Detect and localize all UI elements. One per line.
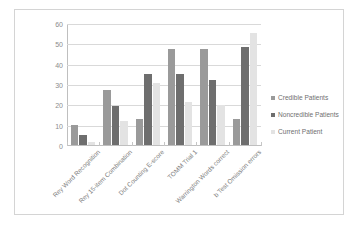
y-axis-tick-label: 20 bbox=[55, 102, 63, 109]
legend-label: Current Patient bbox=[278, 129, 322, 136]
plot-area: 0102030405060 bbox=[67, 24, 261, 146]
bar bbox=[209, 80, 217, 145]
bar bbox=[185, 102, 193, 145]
bar-group bbox=[164, 23, 196, 145]
legend-label: Credible Patients bbox=[278, 95, 328, 102]
bar bbox=[144, 74, 152, 145]
legend-item[interactable]: Current Patient bbox=[271, 128, 351, 136]
legend-item[interactable]: Noncredible Patients bbox=[271, 111, 351, 119]
bar bbox=[88, 142, 96, 145]
y-axis-tick-label: 40 bbox=[55, 61, 63, 68]
legend-swatch-icon bbox=[271, 113, 275, 117]
bar bbox=[250, 33, 258, 145]
legend-swatch-icon bbox=[271, 96, 275, 100]
y-axis-tick-label: 50 bbox=[55, 41, 63, 48]
bar bbox=[200, 49, 208, 145]
legend-label: Noncredible Patients bbox=[278, 112, 339, 119]
chart-legend: Credible PatientsNoncredible PatientsCur… bbox=[271, 94, 351, 145]
x-axis-category-label: TOMM Trial 1 bbox=[166, 149, 198, 181]
bar bbox=[103, 90, 111, 145]
chart-frame: 0102030405060 Rey Word RecognitionRey 15… bbox=[14, 9, 344, 215]
bar bbox=[112, 106, 120, 145]
bar bbox=[153, 83, 161, 145]
y-axis-tick-label: 10 bbox=[55, 122, 63, 129]
legend-swatch-icon bbox=[271, 130, 275, 134]
bar bbox=[120, 121, 128, 145]
bar bbox=[136, 119, 144, 145]
bar bbox=[168, 49, 176, 145]
bar-group bbox=[132, 23, 164, 145]
y-axis-tick-label: 0 bbox=[59, 143, 63, 150]
x-axis-tick bbox=[261, 142, 262, 146]
bar bbox=[71, 125, 79, 145]
bar bbox=[233, 119, 241, 145]
bar-group bbox=[229, 23, 261, 145]
bar bbox=[79, 135, 87, 145]
y-axis-tick-label: 60 bbox=[55, 21, 63, 28]
legend-item[interactable]: Credible Patients bbox=[271, 94, 351, 102]
bar-group bbox=[99, 23, 131, 145]
y-axis-tick-label: 30 bbox=[55, 82, 63, 89]
bar-group bbox=[196, 23, 228, 145]
bar bbox=[176, 74, 184, 145]
bar-group bbox=[67, 23, 99, 145]
bar bbox=[241, 47, 249, 145]
bar bbox=[217, 105, 225, 145]
